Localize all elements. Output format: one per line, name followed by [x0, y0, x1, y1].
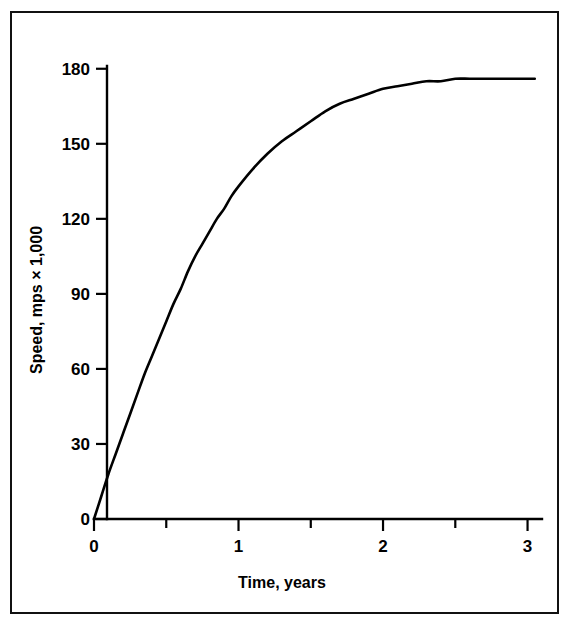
y-tick-label-120: 120 — [62, 210, 90, 229]
x-tick-label-1: 1 — [234, 537, 243, 556]
x-axis-tick-labels: 0123 — [89, 537, 532, 556]
y-tick-label-150: 150 — [62, 135, 90, 154]
y-tick-label-60: 60 — [71, 360, 90, 379]
y-axis-ticks — [96, 69, 107, 519]
x-tick-label-0: 0 — [89, 537, 98, 556]
y-tick-label-180: 180 — [62, 60, 90, 79]
speed-curve — [94, 79, 535, 519]
x-axis-minor-ticks — [166, 519, 455, 528]
x-axis-title: Time, years — [238, 574, 326, 591]
y-tick-label-30: 30 — [71, 435, 90, 454]
y-tick-label-90: 90 — [71, 285, 90, 304]
x-tick-label-3: 3 — [523, 537, 532, 556]
y-tick-label-0: 0 — [81, 510, 90, 529]
figure-page: 0306090120150180 0123 Speed, mps × 1,000… — [0, 0, 573, 628]
y-axis-tick-labels: 0306090120150180 — [62, 60, 90, 529]
y-axis-title: Speed, mps × 1,000 — [28, 226, 45, 374]
chart-plot: 0306090120150180 0123 Speed, mps × 1,000… — [0, 0, 573, 628]
x-tick-label-2: 2 — [378, 537, 387, 556]
